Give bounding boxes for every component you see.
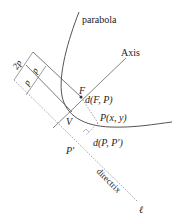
dimension-2p-label: 2p bbox=[10, 58, 24, 72]
directrix-label: directrix bbox=[95, 166, 124, 195]
parabola-label: parabola bbox=[82, 14, 117, 25]
distance-pp-label: d(P, P′) bbox=[93, 137, 123, 149]
foot-label: P′ bbox=[65, 145, 75, 156]
vertex-label: V bbox=[66, 116, 74, 127]
axis-label: Axis bbox=[121, 47, 140, 58]
right-angle-mark bbox=[83, 129, 89, 132]
dimension-p1-label: p bbox=[21, 77, 33, 88]
directrix-symbol: ℓ bbox=[139, 204, 143, 215]
parabola-curve bbox=[61, 12, 172, 127]
point-label: P(x, y) bbox=[99, 112, 127, 124]
parabola-diagram: parabola Axis F d(F, P) V P(x, y) d(P, P… bbox=[0, 0, 179, 223]
distance-fp-label: d(F, P) bbox=[85, 94, 113, 106]
